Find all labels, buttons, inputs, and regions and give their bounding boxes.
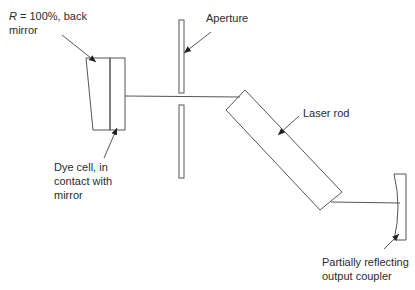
beam-segment xyxy=(125,96,240,97)
laser-resonator-diagram xyxy=(0,0,415,290)
label-aperture: Aperture xyxy=(206,11,248,25)
arrow-back-mirror xyxy=(62,35,96,62)
arrow-dye-cell xyxy=(104,128,117,158)
label-dye-cell: Dye cell, in contact with mirror xyxy=(54,160,112,202)
label-laser-rod: Laser rod xyxy=(303,106,349,120)
arrow-output-coupler xyxy=(384,234,399,249)
output-coupler-shape xyxy=(394,174,406,240)
dye-cell-shape xyxy=(110,58,125,130)
label-back-mirror: R = 100%, back mirror xyxy=(9,9,87,37)
arrow-laser-rod xyxy=(278,116,299,135)
label-output-coupler: Partially reflecting output coupler xyxy=(322,255,409,283)
beam-segment xyxy=(331,202,400,203)
aperture-bottom-bar xyxy=(179,105,184,178)
back-mirror-shape xyxy=(86,58,110,130)
aperture-top-bar xyxy=(179,20,184,93)
arrow-aperture xyxy=(184,32,211,53)
